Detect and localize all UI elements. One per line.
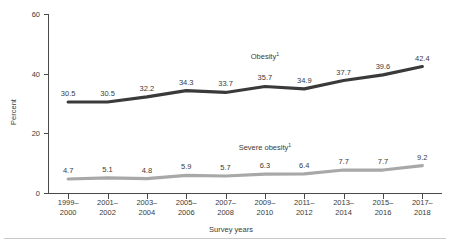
x-tick-label-2: 2003–: [136, 198, 158, 207]
value-label: 7.7: [338, 157, 348, 166]
value-label: 32.2: [140, 84, 155, 93]
obesity-line: [68, 67, 422, 103]
x-tick-label-5: 2010: [257, 208, 274, 217]
y-tick-label-40: 40: [32, 70, 40, 79]
footer-divider: [4, 238, 446, 239]
x-tick-label-8: 2016: [375, 208, 392, 217]
value-label: 7.7: [378, 157, 388, 166]
value-label: 34.9: [297, 76, 312, 85]
severe-obesity-line: [68, 166, 422, 179]
y-axis-title: Percent: [9, 98, 18, 125]
value-label: 35.7: [258, 73, 273, 82]
value-label: 5.7: [220, 163, 230, 172]
x-tick-label-9: 2017–: [412, 198, 434, 207]
value-label: 34.3: [179, 78, 194, 87]
value-label: 6.3: [260, 161, 270, 170]
x-tick-label-7: 2013–: [333, 198, 355, 207]
value-label: 33.7: [218, 79, 233, 88]
x-tick-label-8: 2015–: [373, 198, 395, 207]
value-label: 6.4: [299, 161, 309, 170]
value-label: 37.7: [336, 68, 351, 77]
x-tick-label-group: 1999–20002001–20022003–20042005–20062007…: [58, 198, 434, 217]
x-tick-label-4: 2007–: [215, 198, 237, 207]
value-label: 30.5: [61, 89, 76, 98]
x-tick-label-4: 2008: [217, 208, 234, 217]
x-tick-label-3: 2005–: [176, 198, 198, 207]
x-tick-label-0: 1999–: [58, 198, 80, 207]
value-label: 4.7: [63, 166, 73, 175]
x-axis: 1999–20002001–20022003–20042005–20062007…: [49, 194, 443, 235]
x-tick-label-6: 2011–: [294, 198, 315, 207]
value-label: 4.8: [142, 166, 152, 175]
x-axis-title: Survey years: [209, 225, 253, 234]
x-tick-label-1: 2001–: [97, 198, 119, 207]
chart-figure: 60 40 20 0 Percent 1999–20002001–2002200…: [0, 0, 450, 247]
x-tick-label-2: 2004: [139, 208, 156, 217]
value-label: 42.4: [415, 54, 430, 63]
y-tick-label-0: 0: [36, 189, 40, 198]
x-tick-label-1: 2002: [99, 208, 116, 217]
x-tick-group: [69, 194, 423, 199]
y-tick-label-20: 20: [32, 129, 40, 138]
y-tick-label-60: 60: [32, 10, 40, 19]
x-tick-label-5: 2009–: [254, 198, 276, 207]
severe-obesity-series-label: Severe obesity1: [239, 142, 292, 152]
obesity-series-label: Obesity1: [251, 51, 279, 61]
value-label: 30.5: [100, 89, 115, 98]
x-tick-label-0: 2000: [60, 208, 77, 217]
line-chart: 60 40 20 0 Percent 1999–20002001–2002200…: [0, 0, 450, 247]
x-tick-label-6: 2012: [296, 208, 313, 217]
x-tick-label-9: 2018: [414, 208, 431, 217]
value-label: 5.9: [181, 162, 191, 171]
series-group: [68, 67, 422, 179]
y-axis: 60 40 20 0 Percent: [9, 10, 49, 198]
x-tick-label-3: 2006: [178, 208, 195, 217]
value-label: 9.2: [417, 153, 427, 162]
value-label: 5.1: [102, 165, 112, 174]
x-tick-label-7: 2014: [335, 208, 352, 217]
value-label: 39.6: [376, 62, 391, 71]
